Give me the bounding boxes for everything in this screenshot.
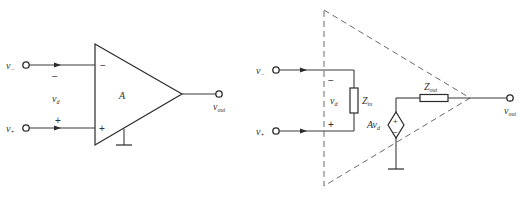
output-terminal[interactable] xyxy=(216,91,222,97)
op-amp-symbol: v− v+ − vd + − + A vout xyxy=(6,44,225,145)
inverting-terminal[interactable] xyxy=(23,62,29,68)
eq-noninverting-arrow-icon xyxy=(300,129,307,134)
source-minus-sign: − xyxy=(393,128,398,137)
zin-resistor xyxy=(350,88,358,113)
noninverting-arrow-icon xyxy=(54,126,61,131)
eq-noninverting-label: v+ xyxy=(256,126,265,138)
source-plus-sign: + xyxy=(393,117,398,126)
op-amp-equivalent-circuit: + − v− v+ − vd + Zin Avd Zout vout xyxy=(256,10,516,186)
vd-plus-sign: + xyxy=(55,115,61,126)
eq-inverting-arrow-icon xyxy=(300,68,307,73)
inverting-input-label: v− xyxy=(6,60,15,72)
noninverting-terminal[interactable] xyxy=(23,125,29,131)
eq-inverting-terminal[interactable] xyxy=(273,67,279,73)
gain-label: A xyxy=(118,90,126,101)
noninverting-pin-sign: + xyxy=(99,123,105,134)
inverting-arrow-icon xyxy=(54,63,61,68)
eq-noninverting-terminal[interactable] xyxy=(273,128,279,134)
dependent-source-label: Avd xyxy=(366,119,381,131)
vd-label: vd xyxy=(52,93,60,105)
vd-minus-sign: − xyxy=(52,71,58,82)
eq-inverting-label: v− xyxy=(256,65,265,77)
output-label: vout xyxy=(213,101,225,113)
op-amp-triangle xyxy=(95,44,182,145)
eq-output-label: vout xyxy=(504,105,516,117)
noninverting-input-label: v+ xyxy=(6,123,15,135)
zout-resistor xyxy=(420,95,448,102)
diagram-canvas: v− v+ − vd + − + A vout xyxy=(0,0,526,197)
inverting-pin-sign: − xyxy=(100,60,106,71)
eq-vd-minus-sign: − xyxy=(328,75,334,86)
op-amp-diagram: v− v+ − vd + − + A vout xyxy=(0,0,526,197)
eq-vd-plus-sign: + xyxy=(328,119,334,130)
zout-label: Zout xyxy=(424,81,438,93)
zin-label: Zin xyxy=(362,95,372,107)
eq-vd-label: vd xyxy=(330,95,338,107)
eq-output-terminal[interactable] xyxy=(507,95,513,101)
